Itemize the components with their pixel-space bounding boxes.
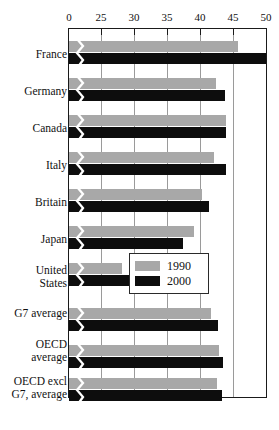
cat-line: Canada <box>0 122 67 135</box>
legend-entry-1990: 1990 <box>135 259 203 273</box>
x-tick-label-50: 50 <box>254 11 278 23</box>
bar-germany-1990 <box>69 78 216 89</box>
category-label-g7-average: G7 average <box>0 307 67 320</box>
tick-mark-45 <box>233 29 234 35</box>
bar-france-1990 <box>69 41 238 52</box>
cat-line: France <box>0 48 67 61</box>
bar-g7-average-2000 <box>69 320 218 331</box>
bar-united-states-2000 <box>69 275 135 286</box>
bar-united-states-1990 <box>69 263 122 274</box>
category-label-france: France <box>0 48 67 61</box>
bar-oecd-average-1990 <box>69 345 219 356</box>
bar-britain-1990 <box>69 189 202 200</box>
legend-label: 1990 <box>167 260 191 272</box>
cat-line: G7, average <box>0 388 67 401</box>
tick-mark-25 <box>101 29 102 35</box>
tick-mark-40 <box>200 29 201 35</box>
legend-swatch-icon <box>135 261 160 271</box>
bar-canada-1990 <box>69 115 226 126</box>
cat-line: G7 average <box>0 307 67 320</box>
cat-line: average <box>0 351 67 364</box>
top-artifact-mark <box>133 0 147 5</box>
cat-line: OECD excl <box>0 375 67 388</box>
cat-line: Britain <box>0 196 67 209</box>
x-tick-label-25: 25 <box>89 11 113 23</box>
category-label-italy: Italy <box>0 159 67 172</box>
bar-chart: 0 25 30 35 40 45 50 France Germany Canad… <box>0 0 279 430</box>
bar-oecd-excl-g7-1990 <box>69 378 217 389</box>
tick-mark-35 <box>167 29 168 35</box>
x-tick-label-30: 30 <box>122 11 146 23</box>
bar-italy-1990 <box>69 152 214 163</box>
bar-japan-1990 <box>69 226 194 237</box>
cat-line: United <box>0 264 67 277</box>
category-label-germany: Germany <box>0 85 67 98</box>
legend-label: 2000 <box>167 275 191 287</box>
cat-line: Japan <box>0 233 67 246</box>
bar-france-2000 <box>69 53 266 64</box>
bar-oecd-excl-g7-2000 <box>69 390 222 401</box>
cat-line: Germany <box>0 85 67 98</box>
cat-line: States <box>0 277 67 290</box>
cat-line: Italy <box>0 159 67 172</box>
bar-germany-2000 <box>69 90 225 101</box>
category-label-japan: Japan <box>0 233 67 246</box>
legend-swatch-icon <box>135 276 160 286</box>
gridline-45 <box>233 29 234 397</box>
legend: 1990 2000 <box>129 253 209 294</box>
category-label-canada: Canada <box>0 122 67 135</box>
bar-britain-2000 <box>69 201 209 212</box>
category-label-oecd-average: OECD average <box>0 338 67 363</box>
cat-line: OECD <box>0 338 67 351</box>
x-tick-label-35: 35 <box>155 11 179 23</box>
bar-g7-average-1990 <box>69 308 211 319</box>
bar-canada-2000 <box>69 127 226 138</box>
plot-area <box>68 28 267 398</box>
x-tick-label-40: 40 <box>188 11 212 23</box>
category-label-britain: Britain <box>0 196 67 209</box>
bar-japan-2000 <box>69 238 183 249</box>
category-label-united-states: United States <box>0 264 67 289</box>
x-tick-label-45: 45 <box>221 11 245 23</box>
category-label-oecd-excl-g7: OECD excl G7, average <box>0 375 67 400</box>
legend-entry-2000: 2000 <box>135 274 203 288</box>
x-tick-label-0: 0 <box>57 11 81 23</box>
bar-oecd-average-2000 <box>69 357 223 368</box>
tick-mark-30 <box>134 29 135 35</box>
bar-italy-2000 <box>69 164 226 175</box>
